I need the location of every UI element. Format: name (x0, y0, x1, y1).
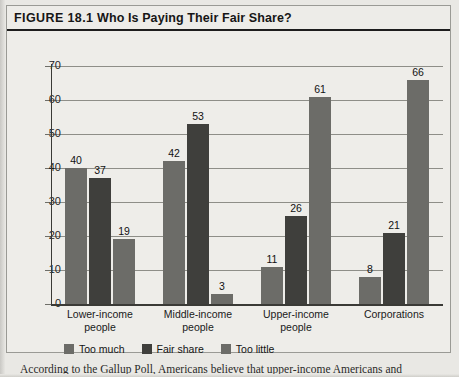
chart-plot-area: 010203040506070 403719Lower-incomepeople… (7, 32, 450, 352)
figure-title: Who Is Paying Their Fair Share? (97, 11, 292, 25)
category-label-line: people (235, 321, 357, 334)
bars-layer: 403719Lower-incomepeople42533Middle-inco… (7, 32, 450, 352)
bar (113, 239, 135, 304)
figure-container: FIGURE 18.1 Who Is Paying Their Fair Sha… (6, 5, 451, 353)
bar (359, 277, 381, 304)
legend-item: Too much (64, 343, 125, 355)
page-edge-shadow (0, 0, 5, 377)
bar-value-label: 3 (202, 280, 242, 292)
bar (285, 216, 307, 304)
category-label-line: Corporations (333, 308, 455, 321)
bar-value-label: 37 (80, 164, 120, 176)
bar (407, 80, 429, 304)
legend-item: Fair share (142, 343, 204, 355)
scanned-page: FIGURE 18.1 Who Is Paying Their Fair Sha… (0, 0, 459, 377)
x-axis-category-label: Corporations (333, 308, 455, 321)
legend-label: Fair share (157, 343, 204, 355)
figure-title-bar: FIGURE 18.1 Who Is Paying Their Fair Sha… (7, 6, 450, 31)
legend-item: Too little (221, 343, 275, 355)
chart-legend: Too muchFair shareToo little (64, 343, 274, 355)
bar-value-label: 19 (104, 225, 144, 237)
bar (89, 178, 111, 304)
bar (383, 233, 405, 304)
bar (163, 161, 185, 304)
legend-swatch-icon (221, 344, 231, 354)
bar (211, 294, 233, 304)
bar (65, 168, 87, 304)
legend-label: Too much (79, 343, 125, 355)
bar-value-label: 53 (178, 110, 218, 122)
bar (187, 124, 209, 304)
legend-label: Too little (236, 343, 275, 355)
legend-swatch-icon (142, 344, 152, 354)
bar-value-label: 66 (398, 66, 438, 78)
bar (309, 97, 331, 304)
figure-number: FIGURE 18.1 (14, 11, 93, 25)
page-title: FIGURE 18.1 Who Is Paying Their Fair Sha… (14, 11, 292, 25)
bar (261, 267, 283, 304)
bar-value-label: 61 (300, 83, 340, 95)
legend-swatch-icon (64, 344, 74, 354)
